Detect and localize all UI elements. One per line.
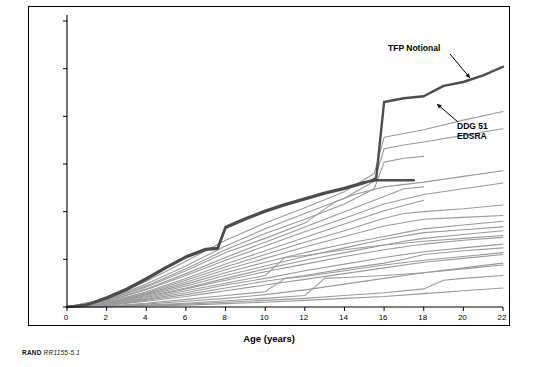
- x-tick-label: 10: [252, 313, 276, 322]
- annotation-tfp-notional: TFP Notional: [388, 44, 440, 54]
- annotation-ddg-51-edsra: DDG 51 EDSRA: [457, 122, 488, 142]
- figure-container: 050,000100,000150,000200,000250,000300,0…: [0, 0, 537, 367]
- x-tick-label: 14: [331, 313, 355, 322]
- x-tick-label: 22: [490, 313, 514, 322]
- figure-credit: RAND RR1155-5.1: [22, 349, 80, 356]
- plot-area: [29, 7, 509, 325]
- x-tick-label: 12: [292, 313, 316, 322]
- x-tick-label: 18: [411, 313, 435, 322]
- x-tick-label: 0: [54, 313, 78, 322]
- series-line: [67, 112, 503, 307]
- plot-frame: [28, 6, 510, 326]
- credit-report-number: RR1155-5.1: [44, 349, 81, 356]
- x-tick-label: 6: [173, 313, 197, 322]
- credit-rand-label: RAND: [22, 349, 42, 356]
- x-tick-label: 16: [371, 313, 395, 322]
- series-line: [67, 183, 503, 307]
- x-tick-label: 8: [213, 313, 237, 322]
- x-tick-label: 4: [133, 313, 157, 322]
- x-axis-ticks: 0246810121416182022: [0, 313, 537, 333]
- x-tick-label: 20: [450, 313, 474, 322]
- x-tick-label: 2: [94, 313, 118, 322]
- x-axis-label: Age (years): [28, 333, 510, 344]
- series-line: [67, 129, 503, 307]
